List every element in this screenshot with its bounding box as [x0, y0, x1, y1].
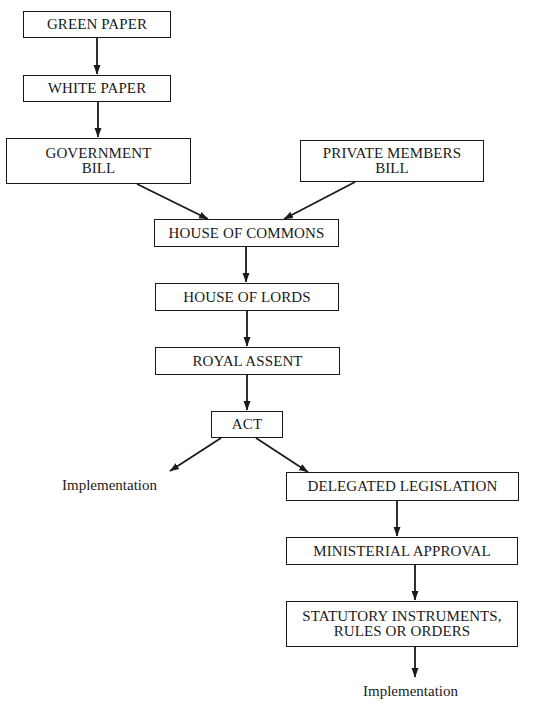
node-label-line-1: PRIVATE MEMBERS — [323, 146, 461, 161]
node-implementation-left: Implementation — [62, 478, 157, 493]
node-label: DELEGATED LEGISLATION — [308, 479, 498, 494]
node-label-line-1: STATUTORY INSTRUMENTS, — [302, 609, 501, 624]
node-royal-assent: ROYAL ASSENT — [155, 347, 340, 375]
node-statutory-instruments: STATUTORY INSTRUMENTS, RULES OR ORDERS — [286, 601, 518, 647]
node-label-line-2: BILL — [375, 161, 409, 176]
node-act: ACT — [211, 411, 283, 438]
arrow-act-to-delegated — [256, 438, 308, 472]
node-implementation-bottom: Implementation — [363, 684, 458, 699]
node-label-line-2: BILL — [82, 161, 116, 176]
node-label: MINISTERIAL APPROVAL — [313, 544, 490, 559]
node-house-of-lords: HOUSE OF LORDS — [155, 283, 339, 311]
node-label: ACT — [232, 417, 262, 432]
node-label-line-2: RULES OR ORDERS — [334, 624, 471, 639]
node-label: GREEN PAPER — [47, 17, 147, 32]
node-ministerial-approval: MINISTERIAL APPROVAL — [286, 537, 518, 565]
node-green-paper: GREEN PAPER — [23, 11, 171, 38]
node-house-of-commons: HOUSE OF COMMONS — [154, 219, 339, 247]
node-label: HOUSE OF LORDS — [183, 290, 310, 305]
node-government-bill: GOVERNMENT BILL — [6, 138, 191, 184]
node-delegated-legislation: DELEGATED LEGISLATION — [286, 472, 519, 501]
node-private-members-bill: PRIVATE MEMBERS BILL — [300, 140, 484, 182]
node-label: ROYAL ASSENT — [192, 354, 302, 369]
arrow-private-to-commons — [284, 182, 355, 219]
node-label: WHITE PAPER — [48, 81, 146, 96]
arrow-act-to-implementation — [170, 438, 221, 471]
node-white-paper: WHITE PAPER — [23, 75, 171, 102]
node-label-line-1: GOVERNMENT — [46, 146, 152, 161]
arrow-government-to-commons — [137, 184, 208, 219]
node-label: HOUSE OF COMMONS — [169, 226, 325, 241]
